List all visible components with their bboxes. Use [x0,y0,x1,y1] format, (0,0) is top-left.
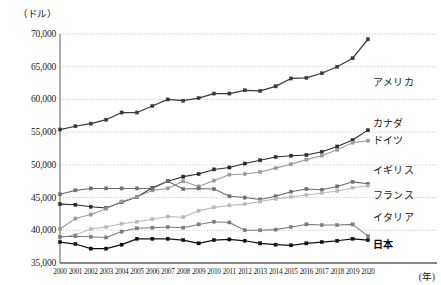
x-tick-label: 2006 [146,267,159,276]
x-tick-label: 2020 [361,267,374,276]
series-label-ドイツ: ドイツ [373,131,404,146]
x-tick-label: 2012 [238,267,251,276]
series-label-カナダ: カナダ [373,115,404,130]
wage-line-chart: （ドル） (年) 70,00065,00060,00055,00050,0004… [0,0,441,285]
series-label-フランス: フランス [373,187,414,202]
x-tick-label: 2016 [300,267,313,276]
x-tick-label: 2011 [223,267,236,276]
series-label-アメリカ: アメリカ [373,74,414,89]
x-tick-label: 2014 [269,267,282,276]
x-tick-label: 2002 [84,267,97,276]
series-label-イギリス: イギリス [373,161,414,176]
x-tick-label: 2000 [53,267,66,276]
x-tick-label: 2015 [284,267,297,276]
x-tick-label: 2017 [315,267,328,276]
x-tick-label: 2001 [69,267,82,276]
x-tick-label: 2008 [176,267,189,276]
x-tick-label: 2007 [161,267,174,276]
x-tick-label: 2010 [207,267,220,276]
series-label-日本: 日本 [373,236,393,251]
x-tick-label: 2018 [330,267,343,276]
x-tick-label: 2019 [346,267,359,276]
x-tick-label: 2009 [192,267,205,276]
x-tick-label: 2003 [99,267,112,276]
x-tick-label: 2004 [115,267,128,276]
x-tick-label: 2013 [253,267,266,276]
x-tick-label: 2005 [130,267,143,276]
series-label-イタリア: イタリア [373,208,414,223]
